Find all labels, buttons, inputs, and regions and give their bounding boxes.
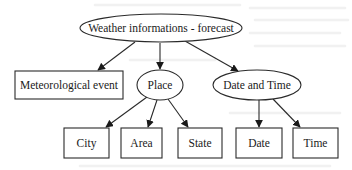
node-label-city: City [77, 137, 97, 150]
node-date: Date [236, 128, 282, 158]
node-meteorological-event: Meteorological event [15, 71, 123, 99]
edge-place-to-state [168, 99, 188, 127]
node-label-area: Area [130, 137, 152, 149]
node-weather-informations-forecast: Weather informations - forecast [80, 14, 242, 42]
weather-forecast-tree-diagram: Weather informations - forecast Meteorol… [0, 0, 352, 170]
node-label-date-and-time: Date and Time [223, 79, 291, 91]
edge-place-to-area [148, 100, 157, 127]
node-date-and-time: Date and Time [213, 70, 301, 100]
node-label-time: Time [304, 137, 328, 149]
node-label-date: Date [248, 137, 270, 149]
edge-root-to-date-and-time [185, 41, 238, 71]
node-area: Area [121, 128, 162, 158]
node-city: City [64, 128, 109, 158]
node-label-meteorological-event: Meteorological event [20, 79, 119, 92]
node-label-state: State [189, 137, 212, 149]
node-time: Time [293, 128, 338, 158]
node-label-place: Place [148, 79, 173, 91]
node-place: Place [137, 70, 183, 100]
edge-place-to-city [106, 97, 147, 127]
node-label-root: Weather informations - forecast [88, 22, 234, 34]
node-state: State [178, 128, 222, 158]
edge-root-to-meteorological-event [98, 42, 135, 70]
